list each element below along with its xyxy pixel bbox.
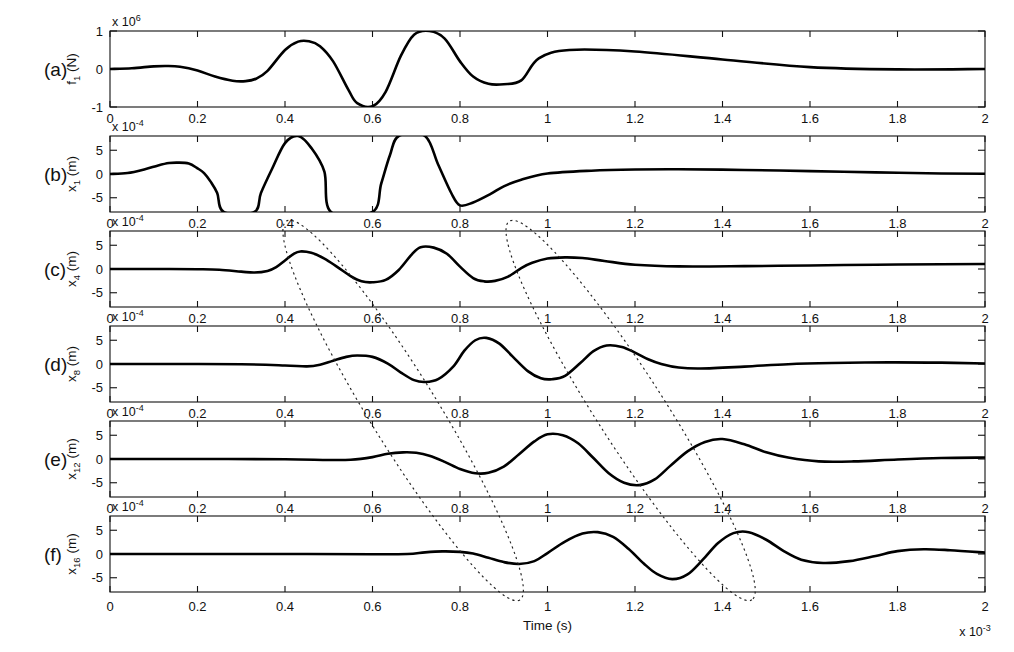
x-tick-label: 2 (981, 111, 988, 126)
x-tick-label: 0.8 (451, 599, 469, 614)
x-tick-label: 1 (544, 216, 551, 231)
x-tick-label: 1.2 (626, 501, 644, 516)
x-tick-label: 1.6 (801, 406, 819, 421)
x-tick-label: 1.8 (888, 599, 906, 614)
x-tick-label: 2 (981, 501, 988, 516)
x-tick-label: 1 (544, 406, 551, 421)
x-tick-label: 0.2 (188, 501, 206, 516)
x-tick-label: 0.6 (363, 311, 381, 326)
x-tick-label: 2 (981, 406, 988, 421)
y-tick-label: 5 (96, 333, 103, 348)
y-tick-label: 0 (96, 62, 103, 77)
x-tick-label: 1.4 (713, 216, 731, 231)
x-axis-title: Time (s) (523, 618, 572, 633)
x-tick-label: 1.6 (801, 501, 819, 516)
y-tick-label: 5 (96, 238, 103, 253)
x-tick-label: 0.8 (451, 406, 469, 421)
x-tick-label: 0.8 (451, 311, 469, 326)
x-tick-label: 1 (544, 501, 551, 516)
y-tick-label: 0 (96, 452, 103, 467)
x-tick-label: 1 (544, 599, 551, 614)
y-tick-label: -5 (91, 475, 103, 490)
x-tick-label: 0.4 (276, 111, 294, 126)
x-tick-label: 1.6 (801, 599, 819, 614)
x-tick-label: 0.2 (188, 216, 206, 231)
x-tick-label: 0.4 (276, 406, 294, 421)
x-tick-label: 0.4 (276, 216, 294, 231)
y-tick-label: -5 (91, 190, 103, 205)
y-tick-label: 0 (96, 357, 103, 372)
y-tick-label: -5 (91, 285, 103, 300)
x-tick-label: 2 (981, 599, 988, 614)
x-tick-label: 1.2 (626, 216, 644, 231)
x-tick-label: 1.6 (801, 216, 819, 231)
x-tick-label: 0.4 (276, 501, 294, 516)
x-tick-label: 0 (106, 599, 113, 614)
x-tick-label: 0.8 (451, 111, 469, 126)
x-tick-label: 0.6 (363, 216, 381, 231)
x-tick-label: 0.2 (188, 599, 206, 614)
x-tick-label: 1.6 (801, 311, 819, 326)
x-tick-label: 1.2 (626, 406, 644, 421)
y-tick-label: 0 (96, 547, 103, 562)
y-tick-label: -5 (91, 380, 103, 395)
x-tick-label: 1.4 (713, 111, 731, 126)
x-tick-label: 0.6 (363, 406, 381, 421)
y-tick-label: 0 (96, 167, 103, 182)
x-tick-label: 1.8 (888, 406, 906, 421)
x-tick-label: 0.6 (363, 501, 381, 516)
x-tick-label: 0.6 (363, 599, 381, 614)
y-tick-label: 5 (96, 143, 103, 158)
x-tick-label: 1.4 (713, 311, 731, 326)
x-tick-label: 2 (981, 216, 988, 231)
x-tick-label: 1.8 (888, 111, 906, 126)
x-tick-label: 0.6 (363, 111, 381, 126)
x-tick-label: 1.6 (801, 111, 819, 126)
x-tick-label: 1.8 (888, 216, 906, 231)
x-tick-label: 1 (544, 111, 551, 126)
x-tick-label: 0.2 (188, 311, 206, 326)
x-tick-label: 0.8 (451, 501, 469, 516)
x-tick-label: 1 (544, 311, 551, 326)
y-tick-label: 0 (96, 262, 103, 277)
panel-letter: (c) (44, 259, 66, 280)
multi-panel-time-series-figure: -101x 10600.20.40.60.811.21.41.61.82(a)f… (0, 0, 1014, 652)
x-tick-label: 1.2 (626, 311, 644, 326)
x-tick-label: 1.8 (888, 501, 906, 516)
x-tick-label: 0.8 (451, 216, 469, 231)
y-tick-label: 1 (96, 24, 103, 39)
x-tick-label: 0.2 (188, 406, 206, 421)
x-tick-label: 2 (981, 311, 988, 326)
x-tick-label: 0.2 (188, 111, 206, 126)
x-tick-label: 0.4 (276, 599, 294, 614)
y-tick-label: 5 (96, 523, 103, 538)
x-tick-label: 1.4 (713, 599, 731, 614)
x-tick-label: 1.2 (626, 599, 644, 614)
y-tick-label: -1 (91, 100, 103, 115)
figure-root: -101x 10600.20.40.60.811.21.41.61.82(a)f… (0, 0, 1014, 652)
panel-letter: (f) (44, 544, 62, 565)
x-tick-label: 1.4 (713, 406, 731, 421)
x-tick-label: 0.4 (276, 311, 294, 326)
x-tick-label: 1.2 (626, 111, 644, 126)
y-tick-label: -5 (91, 570, 103, 585)
y-tick-label: 5 (96, 428, 103, 443)
x-tick-label: 1.8 (888, 311, 906, 326)
